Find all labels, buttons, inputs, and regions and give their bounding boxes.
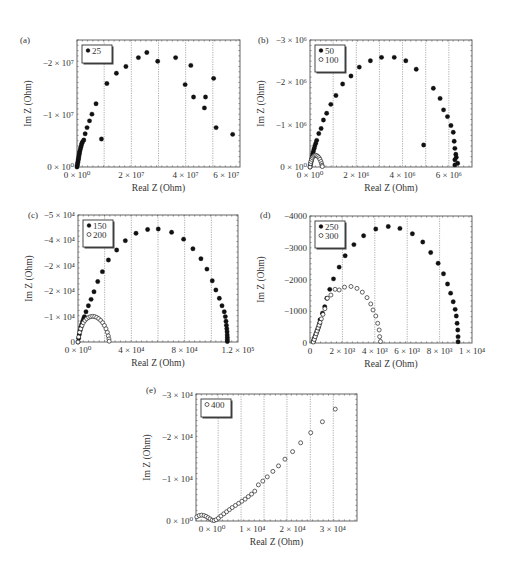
series-300 [311, 284, 382, 344]
data-point [189, 63, 193, 67]
data-point [124, 64, 128, 68]
data-point [83, 132, 87, 136]
legend-label: 200 [93, 230, 107, 240]
data-point [319, 317, 323, 321]
x-tick-label: 1 × 10⁴ [239, 524, 265, 534]
data-point [378, 339, 382, 343]
data-point [449, 123, 453, 127]
data-point [428, 250, 432, 254]
y-tick-label: −1 × 10⁴ [44, 312, 75, 322]
x-tick-labels: 0 × 10⁰4 × 10⁴8 × 10⁴1.2 × 10⁵ [65, 345, 255, 355]
data-point [230, 132, 234, 136]
x-tick-label: 6 × 10⁷ [213, 170, 239, 180]
data-point [205, 267, 209, 271]
x-tick-label: 2 × 10³ [330, 346, 356, 356]
data-point [448, 291, 452, 295]
data-point [145, 227, 149, 231]
panel-c: (c)0 × 10⁰4 × 10⁴8 × 10⁴1.2 × 10⁵0−1 × 1… [24, 210, 254, 369]
legend-marker [87, 224, 91, 228]
data-point [452, 139, 456, 143]
x-tick-label: 8 × 10³ [427, 346, 453, 356]
data-point [331, 277, 335, 281]
data-point [92, 290, 96, 294]
data-point [224, 319, 228, 323]
legend-marker [205, 403, 209, 407]
x-tick-label: 2 × 10⁶ [343, 170, 369, 180]
data-point [431, 86, 435, 90]
panel-label: (a) [20, 35, 30, 45]
panel-a: (a)0 × 10⁰2 × 10⁷4 × 10⁷6 × 10⁷0 × 10⁰−1… [20, 35, 240, 194]
legend-marker [87, 233, 91, 237]
data-point [441, 108, 445, 112]
data-point [220, 303, 224, 307]
data-point [438, 96, 442, 100]
figure-canvas: (a)0 × 10⁰2 × 10⁷4 × 10⁷6 × 10⁷0 × 10⁰−1… [0, 0, 509, 572]
data-point [256, 483, 260, 487]
data-point [85, 125, 89, 129]
y-tick-label: −3000 [284, 243, 308, 253]
legend: 150200 [83, 220, 115, 249]
data-point [90, 112, 94, 116]
y-tick-label: 0 [303, 338, 308, 348]
y-tick-labels: 0 × 10⁰−1 × 10⁶−2 × 10⁶−3 × 10⁶ [276, 35, 308, 172]
data-point [456, 334, 460, 338]
y-tick-label: −2 × 10⁶ [276, 77, 307, 87]
legend-label: 400 [211, 400, 225, 410]
data-point [123, 238, 127, 242]
x-tick-label: 6 × 10⁶ [436, 170, 462, 180]
data-point [357, 65, 361, 69]
data-point [145, 50, 149, 54]
data-point [183, 82, 187, 86]
data-point [453, 163, 457, 167]
data-point [319, 126, 323, 130]
data-point [82, 138, 86, 142]
x-tick-label: 2 × 10⁴ [279, 524, 305, 534]
gridlines [342, 216, 439, 343]
data-point [325, 296, 329, 300]
data-point [343, 285, 347, 289]
data-point [337, 265, 341, 269]
data-point [349, 284, 353, 288]
y-tick-label: 0 × 10⁰ [280, 162, 307, 172]
data-point [454, 314, 458, 318]
x-tick-label: 2 × 10⁷ [118, 170, 144, 180]
y-axis-title: Im Z (Ohm) [23, 80, 34, 126]
panel-label: (d) [260, 210, 271, 220]
data-point [96, 279, 100, 283]
data-point [377, 328, 381, 332]
y-tick-label: −2 × 10⁴ [44, 286, 75, 296]
legend-marker [319, 225, 323, 229]
data-point [445, 282, 449, 286]
data-point [134, 231, 138, 235]
legend: 400 [201, 399, 233, 419]
data-point [99, 137, 103, 141]
x-tick-label: 6 × 10³ [394, 346, 420, 356]
panel-e: (e)0 × 10⁰1 × 10⁴2 × 10⁴3 × 10⁴0 × 10⁰−1… [142, 385, 357, 548]
x-axis-title: Real Z (Ohm) [364, 183, 417, 194]
data-point [453, 307, 457, 311]
data-point [89, 297, 93, 301]
y-tick-label: 0 [71, 337, 76, 347]
data-point [203, 95, 207, 99]
data-point [211, 76, 215, 80]
data-point [392, 55, 396, 59]
data-point [441, 272, 445, 276]
data-point [155, 59, 159, 63]
x-tick-labels: 0 × 10⁰2 × 10⁷4 × 10⁷6 × 10⁷ [64, 170, 240, 180]
data-point [225, 339, 229, 343]
data-point [191, 95, 195, 99]
y-axis-title: Im Z (Ohm) [24, 255, 35, 301]
legend: 25 [82, 45, 114, 65]
data-point [436, 261, 440, 265]
y-axis-title: Im Z (Ohm) [256, 80, 267, 126]
x-tick-label: 0 [308, 346, 313, 356]
data-point [404, 59, 408, 63]
x-tick-label: 0 × 10⁰ [65, 345, 92, 355]
y-tick-label: 0 × 10⁰ [47, 162, 74, 172]
x-tick-label: 4 × 10³ [362, 346, 388, 356]
y-tick-label: −2 × 10⁴ [44, 261, 75, 271]
data-point [321, 118, 325, 122]
legend-marker [319, 234, 323, 238]
data-point [361, 233, 365, 237]
data-point [210, 279, 214, 283]
